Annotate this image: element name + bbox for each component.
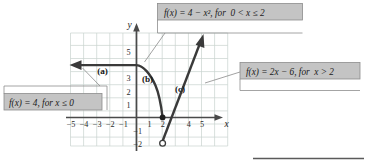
x-tick--2: −2	[106, 120, 115, 129]
y-axis-label: y	[126, 20, 132, 30]
piece-label-b: (b)	[142, 74, 153, 84]
piece-label-c: (c)	[175, 84, 185, 94]
x-tick-1: 1	[148, 120, 152, 129]
graph-canvas: y x −5 −4 −3 −2 −1 1 2 4 5 5 3 2 1 −1 −2	[0, 0, 366, 162]
piecewise-function-figure: y x −5 −4 −3 −2 −1 1 2 4 5 5 3 2 1 −1 −2	[0, 0, 366, 162]
y-tick--1: −1	[133, 127, 142, 136]
y-tick-2: 2	[126, 88, 130, 97]
callout-parabola-label: f(x) = 4 − x², for 0 < x ≤ 2	[164, 8, 265, 19]
x-tick--1: −1	[119, 120, 128, 129]
x-tick-2: 2	[161, 120, 165, 129]
figure-background	[0, 0, 366, 162]
x-tick-4: 4	[187, 120, 191, 129]
closed-endpoint-dot	[160, 115, 166, 121]
x-tick--5: −5	[67, 120, 76, 129]
open-endpoint-circle	[160, 140, 166, 146]
callout-constant-label: f(x) = 4, for x ≤ 0	[9, 98, 74, 109]
callout-linear-label: f(x) = 2x − 6, for x > 2	[246, 67, 334, 78]
x-tick-5: 5	[200, 120, 204, 129]
y-tick-1: 1	[126, 101, 130, 110]
x-tick--3: −3	[93, 120, 102, 129]
y-tick-3: 3	[126, 74, 130, 83]
x-tick--4: −4	[80, 120, 89, 129]
x-axis-label: x	[223, 119, 229, 129]
piece-label-a: (a)	[97, 66, 108, 76]
y-tick-5: 5	[126, 48, 130, 57]
y-tick--2: −2	[133, 140, 142, 149]
